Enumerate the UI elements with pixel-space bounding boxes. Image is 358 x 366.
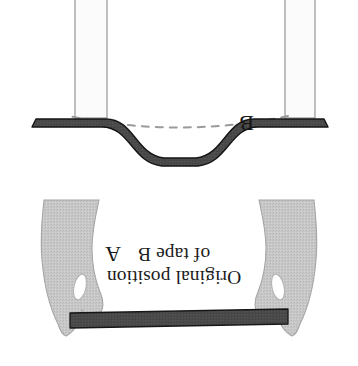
caption-original-position: Original position of tape B bbox=[74, 243, 274, 288]
tape-a-straight bbox=[70, 309, 288, 328]
figure-illustration bbox=[0, 0, 358, 366]
tape-b-sagging bbox=[32, 119, 328, 166]
caption-line-1: Original position bbox=[74, 265, 274, 288]
left-support-post bbox=[75, 0, 107, 118]
right-support-post bbox=[285, 0, 315, 118]
figure-root: Original position of tape B B A bbox=[0, 0, 358, 366]
part-label-a: A bbox=[105, 243, 121, 265]
caption-line-2: of tape B bbox=[74, 243, 274, 266]
rotated-page-content: Original position of tape B B A bbox=[0, 0, 358, 366]
part-label-b: B bbox=[239, 112, 254, 134]
tape-b-scene bbox=[32, 0, 328, 166]
